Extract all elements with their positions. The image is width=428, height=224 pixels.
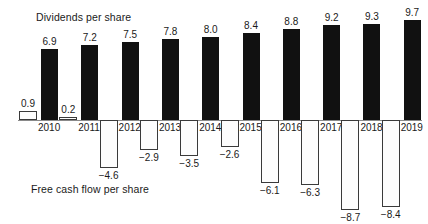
year-tick-label: 2010 xyxy=(38,122,60,133)
dividend-bar xyxy=(363,24,380,120)
year-tick-label: 2014 xyxy=(199,122,221,133)
year-tick-label: 2017 xyxy=(320,122,342,133)
year-tick-label: 2011 xyxy=(78,122,100,133)
dividend-bar xyxy=(323,25,340,120)
free-cash-flow-bar xyxy=(221,120,239,147)
dividend-bar xyxy=(162,39,179,120)
year-tick-label: 2016 xyxy=(280,122,302,133)
free-cash-flow-bar xyxy=(59,117,77,120)
free-cash-flow-value-label: −4.6 xyxy=(90,170,128,181)
free-cash-flow-bar xyxy=(261,120,279,183)
free-cash-flow-value-label: −3.5 xyxy=(170,158,208,169)
chart-figure: Dividends per share Free cash flow per s… xyxy=(0,0,428,224)
free-cash-flow-bar xyxy=(382,120,400,207)
free-cash-flow-value-label: −2.6 xyxy=(211,149,249,160)
free-cash-flow-bar xyxy=(180,120,198,156)
free-cash-flow-value-label: −6.3 xyxy=(291,187,329,198)
dividend-bar xyxy=(81,45,98,120)
free-cash-flow-bar xyxy=(341,120,359,210)
dividend-bar xyxy=(243,33,260,120)
dividend-bar xyxy=(404,20,421,120)
year-tick-label: 2012 xyxy=(119,122,141,133)
year-tick-label: 2018 xyxy=(360,122,382,133)
bar-group: −8.49.72019 xyxy=(382,0,422,224)
free-cash-flow-bar xyxy=(100,120,118,168)
free-cash-flow-value-label: −8.4 xyxy=(372,209,410,220)
bar-group: −2.97.82013 xyxy=(140,0,180,224)
bar-group: 0.27.22011 xyxy=(59,0,99,224)
dividend-bar xyxy=(202,37,219,120)
free-cash-flow-value-label: −6.1 xyxy=(251,185,289,196)
free-cash-flow-bar xyxy=(301,120,319,185)
free-cash-flow-bar xyxy=(19,111,37,120)
dividend-bar xyxy=(122,42,139,120)
year-tick-label: 2015 xyxy=(240,122,262,133)
bar-group: −6.39.22017 xyxy=(301,0,341,224)
year-tick-label: 2013 xyxy=(159,122,181,133)
free-cash-flow-value-label: −2.9 xyxy=(130,152,168,163)
bar-group: −3.58.02014 xyxy=(180,0,220,224)
plot-area: 0.96.920100.27.22011−4.67.52012−2.97.820… xyxy=(0,0,428,224)
bar-group: −4.67.52012 xyxy=(100,0,140,224)
dividend-bar xyxy=(283,29,300,120)
free-cash-flow-bar xyxy=(140,120,158,150)
bar-group: −8.79.32018 xyxy=(341,0,381,224)
dividend-value-label: 9.7 xyxy=(394,7,428,18)
year-tick-label: 2019 xyxy=(401,122,423,133)
free-cash-flow-value-label: −8.7 xyxy=(331,212,369,223)
